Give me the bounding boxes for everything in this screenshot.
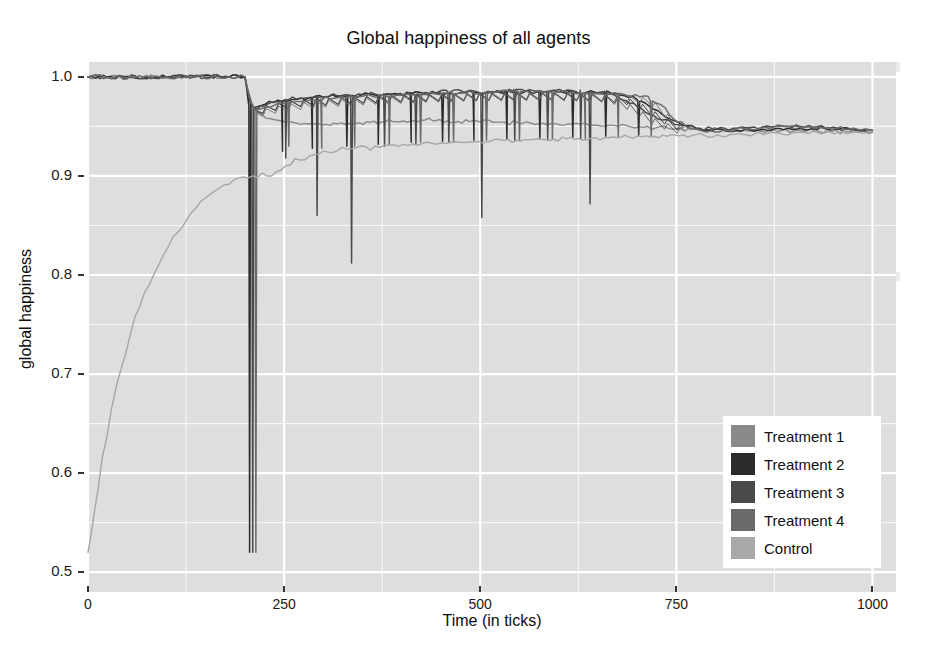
legend-label: Treatment 2 <box>764 456 844 473</box>
legend-label: Treatment 3 <box>764 484 844 501</box>
legend-label: Treatment 4 <box>764 512 844 529</box>
x-tick-mark <box>871 586 873 592</box>
x-tick-label: 0 <box>58 596 118 612</box>
legend-label: Treatment 1 <box>764 428 844 445</box>
legend-item: Control <box>731 534 812 562</box>
y-tick-mark <box>78 274 84 276</box>
x-tick-label: 750 <box>646 596 706 612</box>
legend-item: Treatment 2 <box>731 450 844 478</box>
x-tick-mark <box>87 586 89 592</box>
y-tick-label: 0.8 <box>26 265 72 282</box>
x-tick-mark <box>479 586 481 592</box>
legend-label: Control <box>764 540 812 557</box>
y-tick-mark <box>78 175 84 177</box>
x-tick-label: 1000 <box>842 596 902 612</box>
y-tick-label: 0.5 <box>26 562 72 579</box>
y-tick-label: 0.7 <box>26 364 72 381</box>
x-tick-label: 500 <box>450 596 510 612</box>
y-tick-mark <box>78 76 84 78</box>
legend-swatch <box>731 425 755 447</box>
legend-swatch <box>731 537 755 559</box>
y-tick-mark <box>78 571 84 573</box>
x-tick-mark <box>283 586 285 592</box>
y-tick-mark <box>78 472 84 474</box>
chart-legend: Treatment 1Treatment 2Treatment 3Treatme… <box>723 416 881 568</box>
legend-item: Treatment 4 <box>731 506 844 534</box>
legend-item: Treatment 1 <box>731 422 844 450</box>
y-tick-label: 0.6 <box>26 463 72 480</box>
legend-item: Treatment 3 <box>731 478 844 506</box>
x-tick-mark <box>675 586 677 592</box>
legend-swatch <box>731 509 755 531</box>
y-tick-mark <box>78 373 84 375</box>
x-tick-label: 250 <box>254 596 314 612</box>
legend-swatch <box>731 481 755 503</box>
y-tick-label: 0.9 <box>26 166 72 183</box>
chart-figure: Global happiness of all agents global ha… <box>0 0 937 659</box>
legend-swatch <box>731 453 755 475</box>
y-tick-label: 1.0 <box>26 67 72 84</box>
